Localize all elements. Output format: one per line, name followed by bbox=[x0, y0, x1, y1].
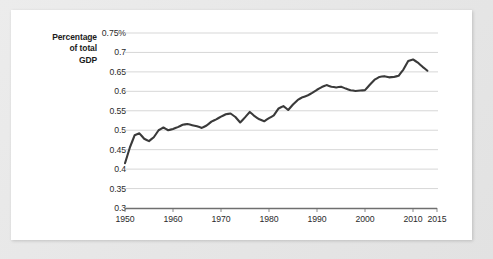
line-chart-graphic bbox=[11, 10, 472, 240]
screenshot-root: Percentage of total GDP 0.30.350.40.450.… bbox=[0, 0, 493, 259]
gridlines bbox=[125, 33, 438, 189]
data-series-line bbox=[125, 59, 427, 163]
chart-panel: Percentage of total GDP 0.30.350.40.450.… bbox=[11, 10, 472, 240]
plot-area: Percentage of total GDP 0.30.350.40.450.… bbox=[11, 10, 472, 240]
